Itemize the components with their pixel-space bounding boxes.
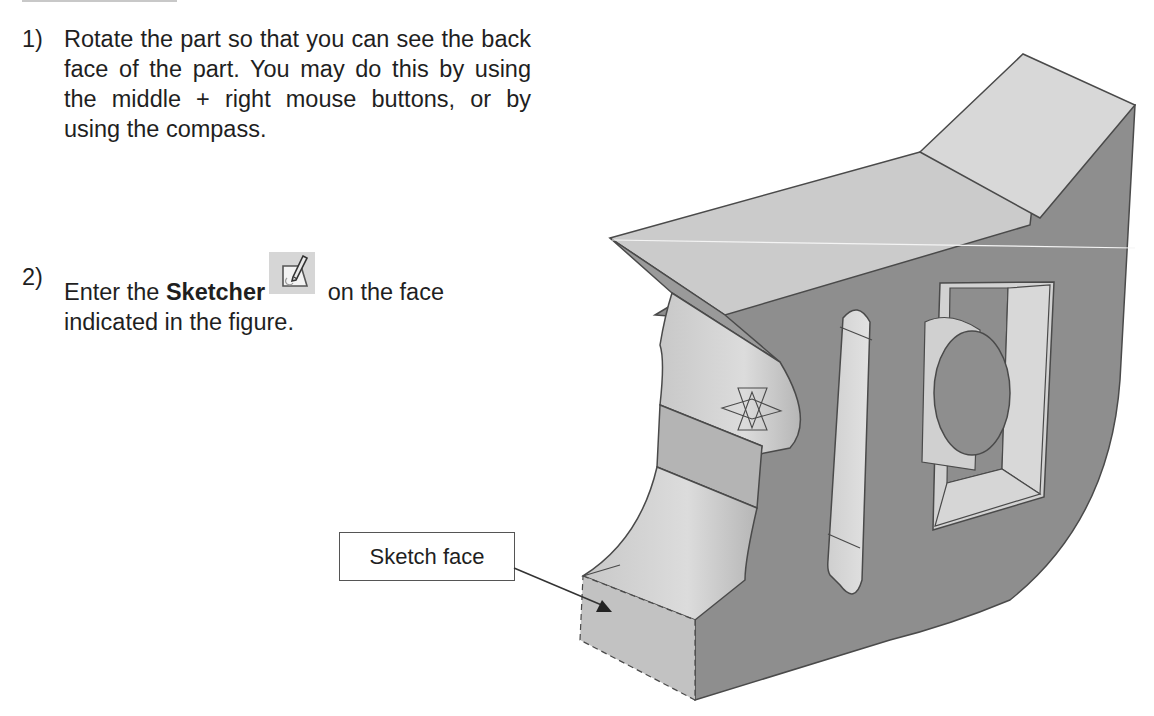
part-figure	[0, 0, 1154, 716]
cylinder-boss	[934, 331, 1010, 455]
